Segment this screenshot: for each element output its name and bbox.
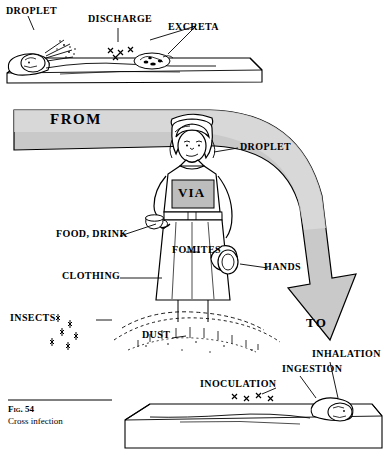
label-excreta: EXCRETA (168, 22, 219, 33)
label-food-drink: FOOD, DRINK (56, 229, 128, 240)
top-patient-panel (7, 16, 262, 83)
label-discharge: DISCHARGE (88, 14, 152, 25)
label-inoculation: INOCULATION (200, 379, 276, 390)
label-clothing: CLOTHING (62, 271, 120, 282)
figure-title: Cross infection (8, 416, 63, 427)
label-inhalation: INHALATION (312, 349, 381, 360)
label-to: TO (306, 316, 327, 330)
label-ingestion: INGESTION (282, 364, 342, 375)
label-hands: HANDS (264, 262, 301, 273)
label-from: FROM (50, 112, 102, 128)
dust-cloud (114, 312, 280, 353)
label-fomites: FOMITES (172, 245, 221, 256)
label-droplet-top: DROPLET (6, 6, 57, 17)
figure-number-text: Fig. 54 (8, 404, 34, 414)
label-droplet-nurse: DROPLET (240, 142, 291, 153)
label-dust: DUST (142, 330, 170, 341)
bottom-patient-panel (125, 362, 382, 448)
label-insects: INSECTS (10, 313, 56, 324)
figure-canvas: Diagram of routes of cross infection fro… (0, 0, 387, 458)
figure-number: Fig. 54 (8, 404, 34, 415)
label-via: VIA (178, 186, 205, 200)
